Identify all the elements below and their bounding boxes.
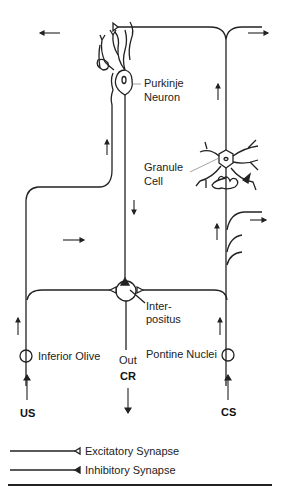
cerebellum-circuit-diagram: Purkinje Neuron Granule Cell Inter- posi… (0, 0, 286, 493)
legend-inhibitory: Inhibitory Synapse (85, 464, 176, 476)
legend-excitatory: Excitatory Synapse (85, 445, 179, 457)
label-cs: CS (221, 406, 236, 418)
label-inferior-olive: Inferior Olive (38, 350, 100, 362)
parallel-fiber (118, 27, 262, 40)
label-pontine-nuclei: Pontine Nuclei (146, 348, 217, 360)
label-purkinje-1: Purkinje (144, 77, 184, 89)
label-granule-2: Cell (144, 175, 163, 187)
climbing-fiber (26, 73, 113, 386)
label-interpositus-2: positus (146, 313, 181, 325)
label-out: Out (119, 354, 137, 366)
label-cr: CR (120, 370, 136, 382)
label-interpositus-1: Inter- (146, 300, 172, 312)
label-purkinje-2: Neuron (144, 91, 180, 103)
label-granule-1: Granule (144, 161, 183, 173)
label-us: US (20, 407, 35, 419)
